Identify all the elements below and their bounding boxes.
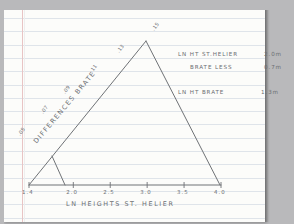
annotation-label-2: LN HT BRATE [178,89,224,95]
x-tick-label: 2.5 [103,189,115,195]
annotation-row-2: LN HT BRATE 1.3m [178,89,288,99]
x-axis-title: LN HEIGHTS ST. HELIER [66,200,174,208]
x-tick-label: 1.4 [22,189,34,195]
page-left-margin [0,0,4,224]
notebook-page: 1.42.02.53.03.54.0 .05.07.09.11.13.15 LN… [0,0,294,224]
annotation-label-0: LN HT ST.HELIER [178,51,238,57]
falling-limb-line [146,41,220,185]
x-tick-label: 3.5 [177,189,189,195]
annotation-value-0: 2.0m [264,51,282,57]
annotation-value-1: 0.7m [264,64,282,70]
annotation-row-0: LN HT ST.HELIER 2.0m [178,51,288,61]
annotation-row-1: BRATE LESS 0.7m [190,64,294,74]
page-top-margin [0,0,294,10]
x-tick-label: 4.0 [214,189,226,195]
x-tick-label: 3.0 [140,189,152,195]
inner-recession-line [52,156,65,185]
x-tick-label: 2.0 [66,189,78,195]
annotation-value-2: 1.3m [261,89,279,95]
annotation-label-1: BRATE LESS [190,64,232,70]
rising-limb-line [29,41,146,185]
